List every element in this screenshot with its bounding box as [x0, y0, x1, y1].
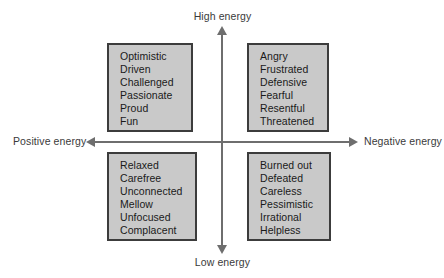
- quadrant-item: Unfocused: [120, 211, 195, 224]
- quadrant-item: Unconnected: [120, 185, 195, 198]
- arrow-left-icon: [86, 137, 95, 147]
- quadrant-item-list: Optimistic Driven Challenged Passionate …: [120, 50, 191, 129]
- quadrant-item: Resentful: [260, 102, 327, 115]
- quadrant-item-list: Burned out Defeated Careless Pessimistic…: [260, 159, 329, 238]
- quadrant-item-list: Relaxed Carefree Unconnected Mellow Unfo…: [120, 159, 195, 238]
- axis-label-low-energy: Low energy: [1, 256, 444, 268]
- quadrant-item: Careless: [260, 185, 329, 198]
- quadrant-item: Pessimistic: [260, 198, 329, 211]
- axis-label-negative-energy: Negative energy: [364, 135, 442, 147]
- quadrant-item: Challenged: [120, 76, 191, 89]
- axis-label-high-energy: High energy: [1, 10, 444, 22]
- quadrant-item: Threatened: [260, 115, 327, 128]
- quadrant-box-high-positive: Optimistic Driven Challenged Passionate …: [107, 43, 193, 132]
- quadrant-box-high-negative: Angry Frustrated Defensive Fearful Resen…: [247, 43, 329, 132]
- quadrant-item: Fun: [120, 115, 191, 128]
- quadrant-item: Carefree: [120, 172, 195, 185]
- arrow-right-icon: [349, 137, 358, 147]
- quadrant-item: Defensive: [260, 76, 327, 89]
- quadrant-item: Proud: [120, 102, 191, 115]
- quadrant-item: Irrational: [260, 211, 329, 224]
- vertical-axis-line: [221, 33, 223, 247]
- quadrant-item: Complacent: [120, 224, 195, 237]
- quadrant-item: Burned out: [260, 159, 329, 172]
- arrow-up-icon: [217, 26, 227, 35]
- quadrant-item: Angry: [260, 50, 327, 63]
- quadrant-box-low-negative: Burned out Defeated Careless Pessimistic…: [247, 152, 331, 241]
- quadrant-item: Fearful: [260, 89, 327, 102]
- quadrant-item: Defeated: [260, 172, 329, 185]
- quadrant-item: Passionate: [120, 89, 191, 102]
- arrow-down-icon: [217, 245, 227, 254]
- horizontal-axis-line: [93, 141, 349, 143]
- energy-quadrant-diagram: High energy Low energy Positive energy N…: [0, 0, 444, 278]
- quadrant-item: Driven: [120, 63, 191, 76]
- quadrant-item: Mellow: [120, 198, 195, 211]
- quadrant-item: Relaxed: [120, 159, 195, 172]
- quadrant-item: Optimistic: [120, 50, 191, 63]
- quadrant-box-low-positive: Relaxed Carefree Unconnected Mellow Unfo…: [107, 152, 197, 241]
- axis-label-positive-energy: Positive energy: [13, 135, 86, 147]
- quadrant-item-list: Angry Frustrated Defensive Fearful Resen…: [260, 50, 327, 129]
- quadrant-item: Frustrated: [260, 63, 327, 76]
- quadrant-item: Helpless: [260, 224, 329, 237]
